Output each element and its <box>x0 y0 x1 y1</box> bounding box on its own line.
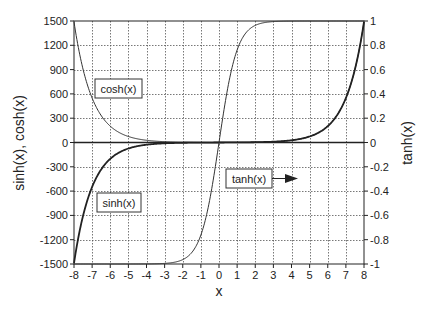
cosh-label: cosh(x) <box>95 79 142 98</box>
cosh-label-text: cosh(x) <box>100 83 136 95</box>
arrow-right-icon <box>285 174 298 183</box>
y-right-tick-label: 0 <box>370 137 376 149</box>
x-tick-label: 0 <box>216 269 222 281</box>
sinh-label: sinh(x) <box>97 193 141 212</box>
y-left-tick-label: -1200 <box>40 234 68 246</box>
y-left-tick-label: -600 <box>46 185 68 197</box>
x-tick-label: -6 <box>105 269 115 281</box>
y-left-tick-label: 1200 <box>44 39 68 51</box>
y-right-tick-label: -0.2 <box>370 161 389 173</box>
x-tick-label: 7 <box>343 269 349 281</box>
y-left-tick-label: -300 <box>46 161 68 173</box>
x-tick-label: -4 <box>142 269 152 281</box>
y-left-tick-label: -1500 <box>40 258 68 270</box>
tanh-label-text: tanh(x) <box>232 173 266 185</box>
x-tick-label: 8 <box>361 269 367 281</box>
y-left-axis-title: sinh(x), cosh(x) <box>11 95 27 191</box>
x-tick-label: -5 <box>123 269 133 281</box>
y-left-tick-label: 0 <box>62 137 68 149</box>
sinh-label-text: sinh(x) <box>102 197 135 209</box>
x-tick-label: 6 <box>325 269 331 281</box>
x-tick-label: -3 <box>160 269 170 281</box>
y-left-tick-label: 900 <box>50 64 68 76</box>
y-right-tick-label: 1 <box>370 15 376 27</box>
y-left-tick-label: -900 <box>46 209 68 221</box>
y-right-tick-label: -0.8 <box>370 234 389 246</box>
x-axis-title: x <box>216 283 223 299</box>
chart: -1500-1200-900-600-300030060090012001500… <box>0 0 431 316</box>
x-tick-label: 1 <box>234 269 240 281</box>
x-tick-label: 4 <box>288 269 294 281</box>
y-right-tick-label: -1 <box>370 258 380 270</box>
y-right-tick-label: 0.2 <box>370 112 385 124</box>
y-left-tick-label: 300 <box>50 112 68 124</box>
y-right-tick-label: 0.4 <box>370 88 385 100</box>
y-left-tick-label: 600 <box>50 88 68 100</box>
x-tick-label: 2 <box>252 269 258 281</box>
x-tick-label: 5 <box>307 269 313 281</box>
y-right-tick-label: 0.6 <box>370 64 385 76</box>
x-tick-label: 3 <box>270 269 276 281</box>
y-right-tick-label: -0.4 <box>370 185 389 197</box>
y-left-tick-label: 1500 <box>44 15 68 27</box>
y-right-tick-labels: -1-0.8-0.6-0.4-0.200.20.40.60.81 <box>364 15 389 270</box>
y-right-tick-label: 0.8 <box>370 39 385 51</box>
x-tick-label: -7 <box>87 269 97 281</box>
y-left-tick-labels: -1500-1200-900-600-300030060090012001500 <box>40 15 74 270</box>
x-tick-label: -2 <box>178 269 188 281</box>
x-tick-labels: -8-7-6-5-4-3-2-1012345678 <box>69 264 367 281</box>
y-right-tick-label: -0.6 <box>370 209 389 221</box>
x-tick-label: -1 <box>196 269 206 281</box>
x-tick-label: -8 <box>69 269 79 281</box>
tanh-label: tanh(x) <box>226 169 298 188</box>
y-right-axis-title: tanh(x) <box>399 121 415 165</box>
